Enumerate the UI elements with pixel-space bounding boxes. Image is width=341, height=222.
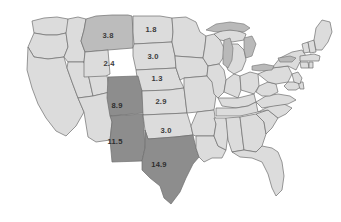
state-ohio[interactable] <box>240 72 259 94</box>
lake-ontario <box>278 56 296 62</box>
lake-huron <box>244 36 256 58</box>
state-arkansas[interactable] <box>191 110 216 136</box>
label-montana: 3.8 <box>102 31 113 40</box>
label-wyoming: 2.4 <box>103 59 115 68</box>
state-colorado[interactable] <box>107 76 143 116</box>
state-oregon[interactable] <box>28 33 68 59</box>
label-north-dakota: 1.8 <box>145 25 156 34</box>
us-value-map-figure: 3.8 1.8 3.0 2.4 1.3 8.9 2.9 11.5 3.0 14.… <box>0 0 341 222</box>
lake-superior <box>206 22 250 32</box>
state-washington[interactable] <box>32 17 69 35</box>
state-indiana[interactable] <box>224 74 241 98</box>
state-minnesota[interactable] <box>172 17 206 58</box>
label-texas: 14.9 <box>151 160 167 169</box>
us-map-svg: 3.8 1.8 3.0 2.4 1.3 8.9 2.9 11.5 3.0 14.… <box>0 0 341 222</box>
lake-erie <box>252 64 274 71</box>
label-oklahoma: 3.0 <box>160 126 171 135</box>
state-maine[interactable] <box>314 20 332 50</box>
label-kansas: 2.9 <box>155 97 166 106</box>
state-connecticut[interactable] <box>300 62 309 68</box>
label-new-mexico: 11.5 <box>107 137 123 146</box>
state-florida[interactable] <box>232 146 284 196</box>
label-south-dakota: 3.0 <box>147 52 158 61</box>
state-west-virginia[interactable] <box>256 82 278 96</box>
label-colorado: 8.9 <box>111 101 122 110</box>
label-nebraska: 1.3 <box>151 74 162 83</box>
state-rhode-island[interactable] <box>309 62 313 68</box>
